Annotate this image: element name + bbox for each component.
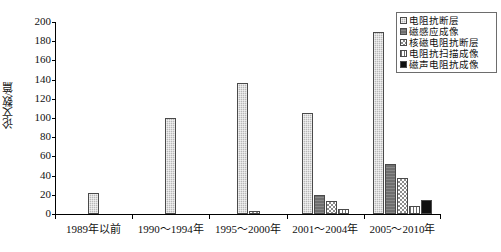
y-tick-label: 120 (11, 93, 51, 104)
bar (338, 209, 349, 214)
legend-item: 磁感应成像 (400, 26, 494, 37)
y-tick-label: 160 (11, 54, 51, 65)
chart-figure: 论文数/篇 020406080100120140160180200 1989年以… (0, 0, 501, 252)
legend: 电阻抗断层磁感应成像核磁电阻抗断层电阻抗扫描成像磁声电阻抗成像 (396, 12, 497, 73)
legend-label: 核磁电阻抗断层 (409, 38, 479, 48)
y-tick-mark (52, 99, 56, 100)
legend-swatch-icon (400, 28, 407, 35)
bar (409, 206, 420, 214)
y-tick-mark (52, 22, 56, 23)
y-tick-mark (52, 60, 56, 61)
bar (373, 32, 384, 214)
y-tick-label: 60 (11, 150, 51, 161)
legend-label: 电阻抗扫描成像 (409, 49, 479, 59)
y-tick-mark (52, 195, 56, 196)
legend-label: 磁感应成像 (409, 27, 459, 37)
y-tick-label: 20 (11, 189, 51, 200)
y-tick-label: 200 (11, 16, 51, 27)
x-tick-label: 1989年以前 (66, 223, 121, 235)
y-tick-mark (52, 137, 56, 138)
legend-item: 磁声电阻抗成像 (400, 59, 494, 70)
bar (385, 164, 396, 214)
bar (302, 113, 313, 214)
y-tick-mark (52, 118, 56, 119)
legend-swatch-icon (400, 17, 407, 24)
legend-swatch-icon (400, 61, 407, 68)
bar (397, 178, 408, 214)
x-tick-label: 1995～2000年 (215, 223, 281, 235)
x-tick-label: 1990～1994年 (138, 223, 204, 235)
legend-label: 电阻抗断层 (409, 16, 459, 26)
bar (326, 201, 337, 214)
plot-area: 020406080100120140160180200 1989年以前1990～… (55, 22, 441, 215)
x-tick-label: 2005～2010年 (369, 223, 435, 235)
legend-swatch-icon (400, 50, 407, 57)
y-tick-label: 180 (11, 35, 51, 46)
y-tick-mark (52, 156, 56, 157)
x-tick-mark (55, 215, 56, 219)
y-tick-label: 80 (11, 131, 51, 142)
x-tick-mark (364, 215, 365, 219)
bar (421, 200, 432, 214)
x-tick-label: 2001～2004年 (292, 223, 358, 235)
legend-item: 核磁电阻抗断层 (400, 37, 494, 48)
y-tick-mark (52, 80, 56, 81)
y-tick-mark (52, 176, 56, 177)
legend-item: 电阻抗扫描成像 (400, 48, 494, 59)
legend-item: 电阻抗断层 (400, 15, 494, 26)
y-tick-label: 100 (11, 112, 51, 123)
bar (314, 195, 325, 214)
x-tick-mark (209, 215, 210, 219)
x-axis-line (55, 214, 441, 215)
x-tick-mark (132, 215, 133, 219)
y-tick-label: 140 (11, 74, 51, 85)
bar (165, 118, 176, 214)
bar (237, 83, 248, 214)
bar (249, 211, 260, 214)
legend-label: 磁声电阻抗成像 (409, 60, 479, 70)
x-tick-mark (287, 215, 288, 219)
bar (88, 193, 99, 214)
legend-swatch-icon (400, 39, 407, 46)
y-tick-label: 0 (11, 208, 51, 219)
y-tick-label: 40 (11, 170, 51, 181)
y-tick-mark (52, 41, 56, 42)
x-tick-mark (440, 215, 441, 219)
